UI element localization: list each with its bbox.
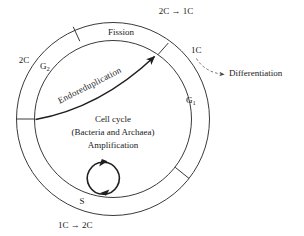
label-segment-g1: G1	[186, 95, 196, 106]
differentiation-dashed-arrow	[197, 59, 225, 75]
label-center-line-1: Cell cycle	[95, 114, 131, 124]
label-segment-g2-subscript: 2	[47, 65, 50, 72]
label-bottom-1c-to-2c: 1C → 2C	[58, 220, 93, 230]
label-segment-g1-subscript: 1	[193, 99, 196, 106]
label-endoreduplication: Endoreduplication	[56, 65, 123, 106]
label-center-line-3: Amplification	[88, 140, 139, 150]
label-right-1c: 1C	[191, 45, 202, 55]
cell-cycle-figure: 2C → 1C Fission 2C G2 1C Differentiation…	[0, 0, 304, 236]
label-top-2c-to-1c: 2C → 1C	[159, 6, 194, 16]
label-left-2c: 2C	[19, 55, 30, 65]
ring-tick-g1-end	[175, 167, 189, 178]
label-differentiation: Differentiation	[229, 68, 283, 78]
s-phase-loop	[87, 162, 119, 194]
ring-tick-fission-end	[158, 43, 168, 55]
label-center-line-2: (Bacteria and Archaea)	[72, 127, 155, 137]
cell-cycle-svg: 2C → 1C Fission 2C G2 1C Differentiation…	[0, 0, 304, 236]
label-s-phase: S	[79, 196, 84, 206]
label-segment-fission: Fission	[108, 27, 135, 37]
label-segment-g2: G2	[40, 61, 50, 72]
